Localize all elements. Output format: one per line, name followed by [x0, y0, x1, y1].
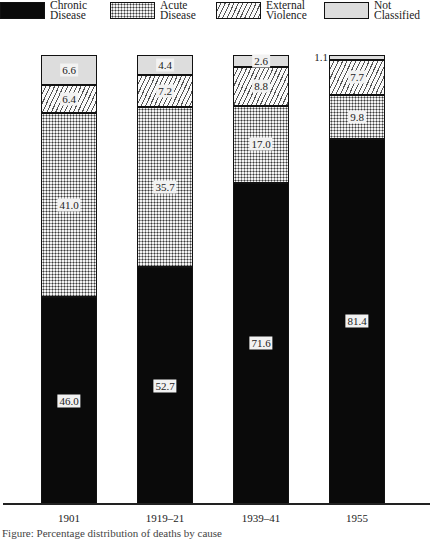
x-axis-label: 1939–41: [242, 512, 281, 524]
value-label: 9.8: [348, 110, 366, 123]
value-label: 4.4: [156, 58, 174, 71]
value-label: 6.4: [60, 92, 78, 105]
value-label: 35.7: [153, 181, 176, 194]
bar-segment-chronic: 81.4: [329, 139, 385, 504]
bar-segment-acute: 41.0: [41, 113, 97, 297]
value-label: 81.4: [345, 315, 368, 328]
value-label: 7.2: [156, 84, 174, 97]
value-label: 17.0: [249, 138, 272, 151]
bar-segment-violence: 7.2: [137, 75, 193, 107]
value-label: 6.6: [60, 63, 78, 76]
bar-segment-chronic: 46.0: [41, 297, 97, 504]
x-axis-label: 1919–21: [146, 512, 185, 524]
bar-segment-notclass: 2.6: [233, 55, 289, 67]
figure-caption-cutoff: Figure: Percentage distribution of death…: [2, 527, 222, 539]
bar-segment-notclass: 4.4: [137, 55, 193, 75]
bar-segment-violence: 6.4: [41, 85, 97, 114]
bar-segment-acute: 35.7: [137, 107, 193, 267]
value-label: 46.0: [57, 394, 80, 407]
value-label: 71.6: [249, 337, 272, 350]
bar-segment-acute: 9.8: [329, 95, 385, 139]
x-axis-line: [3, 503, 430, 505]
value-label: 8.8: [252, 80, 270, 93]
bar-segment-violence: 7.7: [329, 60, 385, 95]
bar-segment-chronic: 52.7: [137, 267, 193, 504]
value-label: 41.0: [57, 199, 80, 212]
bar-segment-violence: 8.8: [233, 67, 289, 107]
bar-segment-notclass: 6.6: [41, 55, 97, 85]
x-axis-label: 1901: [58, 512, 80, 524]
bar-segment-chronic: 71.6: [233, 183, 289, 504]
x-axis-label: 1955: [346, 512, 368, 524]
bar-segment-acute: 17.0: [233, 106, 289, 182]
value-label: 1.1: [314, 52, 328, 63]
bar-segment-notclass: 1.1: [329, 55, 385, 60]
value-label: 2.6: [252, 54, 270, 67]
value-label: 52.7: [153, 379, 176, 392]
value-label: 7.7: [348, 71, 366, 84]
